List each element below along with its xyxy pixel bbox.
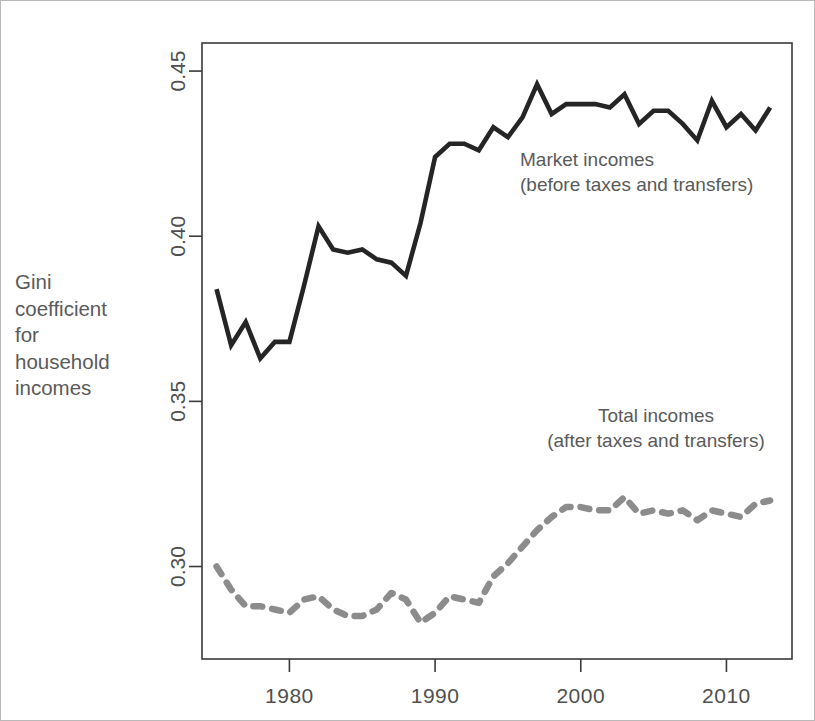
y-axis-tick-label: 0.35: [167, 381, 190, 422]
series-annotation-market: Market incomes (before taxes and transfe…: [520, 147, 753, 197]
figure-container: 19801990200020100.300.350.400.45 Gini co…: [0, 0, 815, 721]
y-axis-tick-label: 0.30: [167, 546, 190, 587]
x-axis-tick-label: 1990: [411, 684, 460, 707]
series-annotation-total: Total incomes (after taxes and transfers…: [515, 403, 797, 453]
y-axis-tick-label: 0.45: [167, 51, 190, 92]
market-annotation-line-2: (before taxes and transfers): [520, 172, 753, 197]
y-axis-title-line-2: coefficient: [15, 297, 107, 320]
y-axis-title-line-3: for: [15, 323, 39, 346]
x-axis-tick-label: 1980: [265, 684, 314, 707]
market-annotation-line-1: Market incomes: [520, 147, 753, 172]
series-line-market-incomes: [217, 84, 771, 358]
x-axis-tick-label: 2000: [556, 684, 605, 707]
x-axis-tick-label: 2010: [702, 684, 751, 707]
y-axis-tick-label: 0.40: [167, 216, 190, 257]
y-axis-title: Gini coefficient for household incomes: [15, 269, 155, 402]
total-annotation-line-2: (after taxes and transfers): [515, 428, 797, 453]
y-axis-title-line-4: household: [15, 350, 110, 373]
plot-frame: [202, 43, 792, 659]
y-axis-title-line-1: Gini: [15, 270, 51, 293]
series-line-total-incomes: [217, 497, 771, 623]
y-axis-title-line-5: incomes: [15, 376, 91, 399]
total-annotation-line-1: Total incomes: [515, 403, 797, 428]
